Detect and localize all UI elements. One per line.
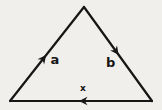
label-vector-b: b bbox=[106, 55, 115, 70]
vector-triangle-figure: a b x bbox=[0, 0, 162, 110]
label-vector-x: x bbox=[80, 83, 86, 93]
label-vector-a: a bbox=[51, 52, 60, 67]
triangle-diagram-canvas: a b x bbox=[0, 0, 162, 110]
paper-background bbox=[0, 0, 162, 110]
